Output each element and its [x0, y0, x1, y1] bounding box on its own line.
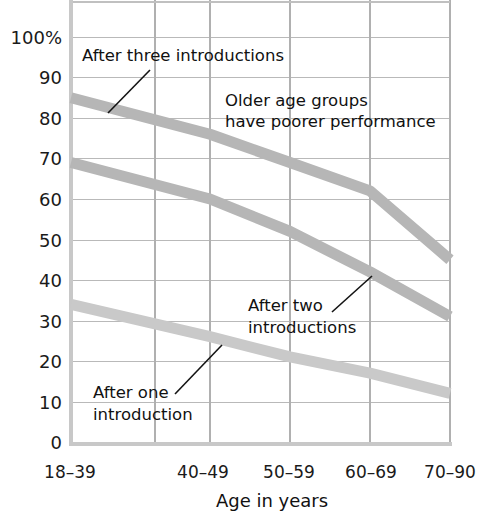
y-tick-50: 50: [39, 230, 62, 251]
x-tick-40-49: 40–49: [177, 462, 229, 482]
y-tick-20: 20: [39, 351, 62, 372]
annotation-older-age-groups: Older age groups have poorer performance: [225, 91, 436, 131]
y-tick-10: 10: [39, 392, 62, 413]
annotation-after-two-line2: introductions: [248, 318, 356, 337]
annotation-after-three-label: After three introductions: [82, 46, 284, 65]
y-tick-0: 0: [51, 432, 62, 453]
x-axis-title: Age in years: [216, 490, 328, 511]
x-tick-70-90: 70–90: [424, 462, 476, 482]
annotation-older-age-groups-line2: have poorer performance: [225, 112, 436, 131]
y-tick-80: 80: [39, 108, 62, 129]
chart-figure: 100% 90 80 70 60 50 40 30 20 10 0 18–39 …: [0, 0, 490, 518]
annotation-after-three-leader: [108, 70, 150, 113]
y-tick-30: 30: [39, 311, 62, 332]
annotation-after-one: After one introduction: [93, 345, 222, 424]
y-tick-60: 60: [39, 189, 62, 210]
y-tick-100: 100%: [11, 27, 62, 48]
annotation-older-age-groups-line1: Older age groups: [225, 91, 368, 110]
y-tick-90: 90: [39, 67, 62, 88]
x-tick-18-39: 18–39: [44, 462, 96, 482]
x-tick-labels: 18–39 40–49 50–59 60–69 70–90: [44, 462, 476, 482]
annotation-after-two: After two introductions: [248, 276, 372, 337]
y-tick-70: 70: [39, 148, 62, 169]
x-tick-50-59: 50–59: [263, 462, 315, 482]
annotation-after-two-line1: After two: [248, 296, 323, 315]
y-tick-40: 40: [39, 270, 62, 291]
annotation-after-one-line2: introduction: [93, 405, 193, 424]
x-tick-60-69: 60–69: [345, 462, 397, 482]
annotation-after-one-line1: After one: [93, 383, 169, 402]
line-chart-svg: 100% 90 80 70 60 50 40 30 20 10 0 18–39 …: [0, 0, 490, 518]
y-tick-labels: 100% 90 80 70 60 50 40 30 20 10 0: [11, 27, 62, 453]
annotation-after-one-leader: [175, 345, 222, 394]
annotation-after-two-leader: [332, 276, 372, 312]
